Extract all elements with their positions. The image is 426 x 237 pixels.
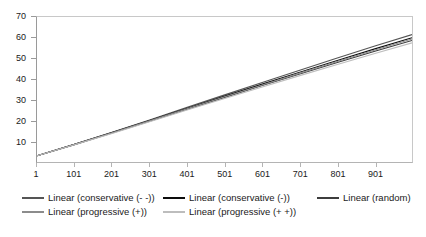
plot-area: 70605040302010 1101201301401501601701801… bbox=[0, 0, 426, 186]
legend-line-swatch bbox=[317, 197, 339, 199]
legend-row-1: Linear (conservative (- -))Linear (conse… bbox=[0, 190, 426, 205]
x-axis-tick-label: 101 bbox=[66, 170, 81, 179]
legend-label: Linear (progressive (+ +)) bbox=[189, 206, 296, 217]
series-line bbox=[37, 35, 412, 156]
legend-item[interactable]: Linear (conservative (- -)) bbox=[22, 192, 155, 203]
x-axis-tick bbox=[149, 163, 150, 167]
legend-item[interactable]: Linear (random) bbox=[317, 192, 411, 203]
x-axis-tick bbox=[36, 163, 37, 167]
series-canvas bbox=[37, 17, 412, 162]
x-axis-tick bbox=[300, 163, 301, 167]
x-axis-tick-label: 201 bbox=[104, 170, 119, 179]
x-axis-tick-label: 601 bbox=[255, 170, 270, 179]
x-axis-tick bbox=[111, 163, 112, 167]
plot-frame bbox=[36, 16, 413, 163]
x-axis-tick-label: 1 bbox=[33, 170, 38, 179]
x-axis-tick bbox=[338, 163, 339, 167]
legend-row-2: Linear (progressive (+))Linear (progress… bbox=[0, 204, 426, 219]
legend-item[interactable]: Linear (progressive (+)) bbox=[22, 206, 147, 217]
legend-label: Linear (progressive (+)) bbox=[48, 206, 147, 217]
legend-item[interactable]: Linear (conservative (-)) bbox=[163, 192, 290, 203]
x-axis-tick-label: 901 bbox=[368, 170, 383, 179]
x-axis-tick bbox=[376, 163, 377, 167]
legend-line-swatch bbox=[22, 211, 44, 213]
legend-line-swatch bbox=[163, 197, 185, 199]
x-axis-tick bbox=[74, 163, 75, 167]
legend-line-swatch bbox=[22, 197, 44, 199]
legend-label: Linear (conservative (- -)) bbox=[48, 192, 155, 203]
legend-label: Linear (conservative (-)) bbox=[189, 192, 290, 203]
x-axis-tick-label: 701 bbox=[293, 170, 308, 179]
line-chart: 70605040302010 1101201301401501601701801… bbox=[0, 0, 426, 237]
x-axis-tick bbox=[262, 163, 263, 167]
x-axis-tick-label: 801 bbox=[330, 170, 345, 179]
x-axis-tick-label: 301 bbox=[142, 170, 157, 179]
series-line bbox=[37, 43, 412, 156]
x-axis-tick bbox=[187, 163, 188, 167]
x-axis-tick-label: 501 bbox=[217, 170, 232, 179]
x-axis-tick-label: 401 bbox=[179, 170, 194, 179]
chart-legend: Linear (conservative (- -))Linear (conse… bbox=[0, 189, 426, 237]
legend-label: Linear (random) bbox=[343, 192, 411, 203]
legend-item[interactable]: Linear (progressive (+ +)) bbox=[163, 206, 296, 217]
x-axis-tick bbox=[225, 163, 226, 167]
legend-line-swatch bbox=[163, 211, 185, 213]
